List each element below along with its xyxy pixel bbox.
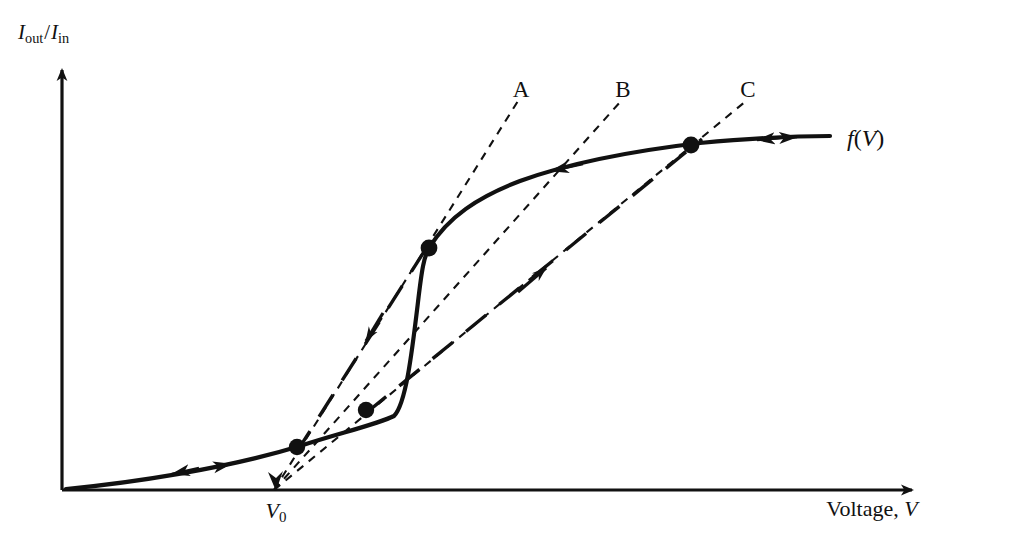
dashed-line-b [274, 101, 621, 490]
curve-label-fv: f(V) [847, 126, 884, 150]
y-axis-label-sub-out: out [25, 30, 43, 46]
curve-label-f: f [847, 125, 854, 151]
v0-label: V0 [266, 500, 287, 525]
v0-symbol: V [266, 498, 279, 523]
operating-point-2 [358, 402, 374, 418]
x-axis-label: Voltage, V [826, 498, 917, 520]
x-axis-label-symbol: V [904, 496, 917, 521]
load-line-shallow [366, 139, 702, 413]
load-lines-group [296, 139, 702, 453]
operating-points-group [289, 137, 700, 456]
v0-convergence-arrow [268, 471, 283, 491]
curve-direction-arrows [172, 137, 797, 474]
y-axis-label: Iout/Iin [18, 22, 69, 45]
curve-label-paren-open: ( [854, 125, 862, 151]
operating-point-1 [289, 439, 305, 455]
x-axis-label-text: Voltage, [826, 496, 898, 521]
dashed-line-label-c: C [740, 78, 755, 101]
operating-point-4 [683, 137, 700, 154]
load-line-steep-arrow [366, 313, 383, 341]
axes-group [62, 70, 912, 490]
dashed-line-label-b: B [615, 78, 630, 101]
y-axis-label-sub-in: in [58, 30, 69, 46]
figure-graphics [0, 0, 1014, 551]
y-axis-label-slash: / [43, 20, 51, 44]
dashed-line-label-a: A [513, 78, 530, 101]
figure-canvas: Iout/Iin Voltage, V V0 f(V) A B C [0, 0, 1014, 551]
load-line-shallow-arrow [518, 268, 546, 292]
y-axis-label-i-out: I [18, 20, 25, 44]
curve-label-paren-close: ) [876, 125, 884, 151]
operating-point-3 [421, 240, 438, 257]
load-line-arrows [366, 268, 546, 341]
transfer-curve [66, 136, 830, 489]
curve-label-var: V [862, 125, 877, 151]
v0-subscript: 0 [279, 509, 286, 525]
